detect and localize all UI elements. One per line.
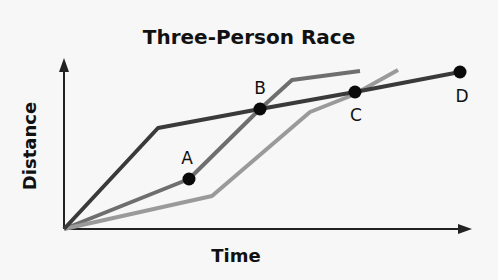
point-label-d: D [455,86,468,106]
point-label-a: A [181,148,193,168]
chart-title: Three-Person Race [143,25,355,49]
point-d [454,66,467,79]
point-label-b: B [254,78,266,98]
annotation-points: ABCD [181,66,468,186]
x-axis-label: Time [211,245,260,266]
y-axis-arrow-icon [59,58,69,72]
x-axis-arrow-icon [458,224,472,234]
point-b [254,103,267,116]
medium-line [64,71,360,229]
chart: Three-Person Race Distance Time ABCD [0,0,498,280]
point-c [349,86,362,99]
point-label-c: C [350,105,362,125]
point-a [183,173,196,186]
y-axis-label: Distance [19,102,40,190]
